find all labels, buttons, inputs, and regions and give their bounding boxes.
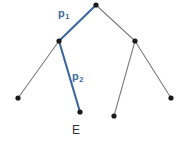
tree-edge bbox=[114, 41, 135, 116]
path-label-p1-text: p bbox=[58, 7, 65, 19]
tree-node bbox=[111, 113, 116, 118]
tree-edge bbox=[18, 41, 59, 98]
tree-edge bbox=[135, 41, 171, 98]
tree-node bbox=[15, 95, 20, 100]
tree-node bbox=[77, 109, 82, 114]
tree-graphics bbox=[0, 0, 183, 144]
path-label-p2-subscript: 2 bbox=[79, 75, 83, 84]
path-label-p1-subscript: 1 bbox=[65, 12, 69, 21]
tree-edge bbox=[96, 5, 135, 41]
tree-node bbox=[56, 38, 61, 43]
edges-layer bbox=[18, 5, 171, 116]
tree-node bbox=[168, 95, 173, 100]
path-label-p2-text: p bbox=[72, 70, 79, 82]
path-label-p1: p1 bbox=[58, 8, 69, 19]
tree-diagram: p1 p2 E bbox=[0, 0, 183, 144]
nodes-layer bbox=[15, 2, 173, 118]
tree-node bbox=[132, 38, 137, 43]
path-label-p2: p2 bbox=[72, 71, 83, 82]
endpoint-label-e: E bbox=[72, 124, 80, 136]
tree-node bbox=[93, 2, 98, 7]
